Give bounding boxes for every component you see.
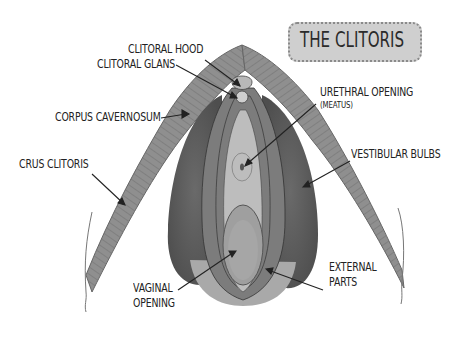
- label-urethral-opening: URETHRAL OPENING: [320, 86, 413, 99]
- label-vaginal-opening-line1: VAGINAL: [133, 282, 173, 295]
- label-corpus-cavernosum: CORPUS CAVERNOSUM: [55, 111, 161, 124]
- label-clitoral-hood: CLITORAL HOOD: [128, 43, 203, 56]
- label-vestibular-bulbs: VESTIBULAR BULBS: [351, 148, 441, 161]
- diagram-title: THE CLITORIS: [300, 28, 404, 52]
- label-meatus: (MEATUS): [320, 100, 353, 110]
- label-crus-clitoris: CRUS CLITORIS: [19, 158, 89, 171]
- label-external-parts-line1: EXTERNAL: [329, 261, 377, 274]
- label-vaginal-opening-line2: OPENING: [133, 297, 175, 310]
- clitoris-diagram: THE CLITORIS CLITORAL HOOD CLITORAL GLAN…: [0, 0, 461, 337]
- label-external-parts-line2: PARTS: [329, 276, 357, 289]
- label-clitoral-glans: CLITORAL GLANS: [97, 58, 175, 71]
